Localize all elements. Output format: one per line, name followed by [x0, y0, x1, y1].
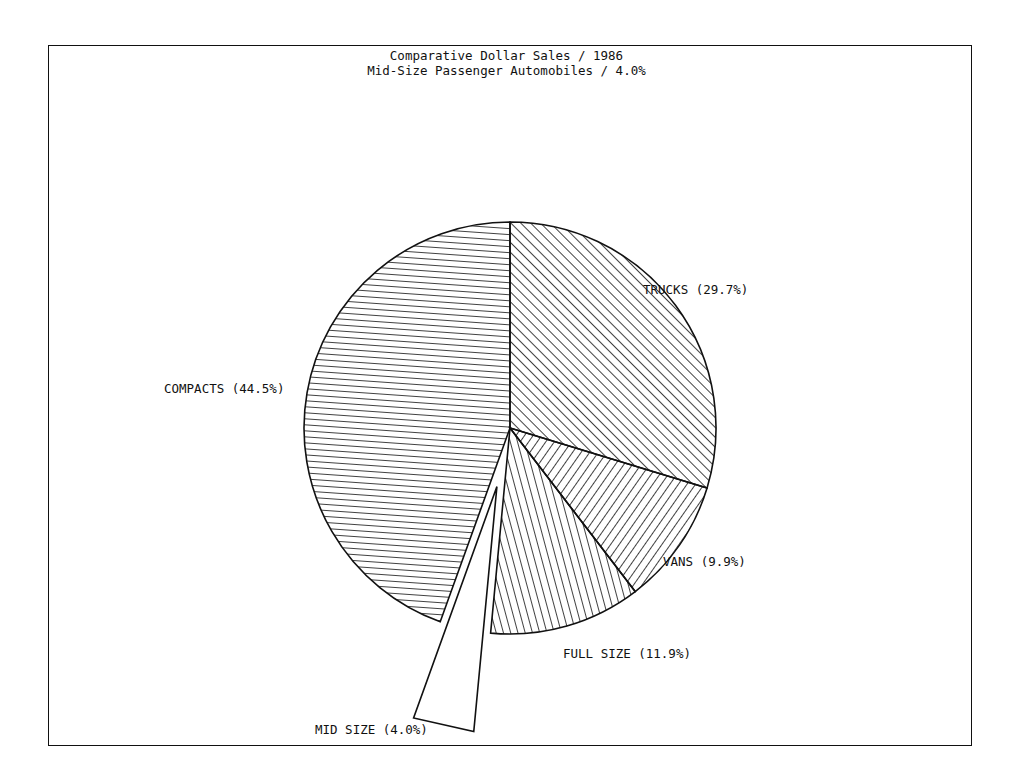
pie-chart	[0, 0, 1013, 784]
label-trucks: TRUCKS (29.7%)	[643, 282, 748, 297]
label-mid-size: MID SIZE (4.0%)	[315, 722, 428, 737]
label-vans: VANS (9.9%)	[663, 554, 746, 569]
label-compacts: COMPACTS (44.5%)	[164, 381, 284, 396]
label-full-size: FULL SIZE (11.9%)	[563, 646, 691, 661]
